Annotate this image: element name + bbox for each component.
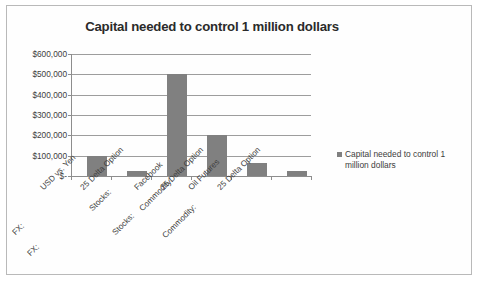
y-axis-tick-label: $400,000 [32,90,67,100]
gridline [71,115,311,116]
gridline [71,54,311,55]
y-axis-tick [68,54,72,55]
y-axis-tick [68,115,72,116]
y-axis-tick [68,74,72,75]
y-axis-tick-label: $600,000 [32,49,67,59]
x-axis-group-label: Stocks: [88,188,113,213]
x-axis-tick [111,176,112,180]
x-axis-tick [71,176,72,180]
x-axis-group-label: FX: [11,222,26,237]
bar[interactable] [247,163,267,176]
chart-frame: Capital needed to control 1 million doll… [6,5,472,275]
gridline [71,135,311,136]
gridline [71,95,311,96]
chart-legend: Capital needed to control 1 million doll… [337,149,469,171]
chart-title: Capital needed to control 1 million doll… [47,19,377,34]
x-axis-tick [311,176,312,180]
y-axis-tick [68,95,72,96]
y-axis-tick-label: $300,000 [32,110,67,120]
y-axis-tick-label: $200,000 [32,130,67,140]
y-axis-tick-label: $500,000 [32,69,67,79]
gridline [71,74,311,75]
x-axis-group-label: Stocks: [111,212,136,237]
x-axis-tick [271,176,272,180]
x-axis-group-label: FX: [26,243,41,258]
y-axis-tick-label: $100,000 [32,151,67,161]
legend-swatch-icon [337,152,342,157]
legend-label: Capital needed to control 1 million doll… [345,149,469,171]
x-axis-group-label: Commodity: [161,203,198,240]
y-axis-labels: $600,000 $500,000 $400,000 $300,000 $200… [11,54,67,176]
y-axis-tick [68,135,72,136]
